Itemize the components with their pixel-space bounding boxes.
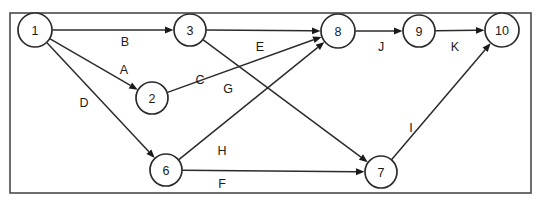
edge-label-H: H <box>217 144 226 158</box>
edge-line <box>168 40 314 93</box>
arrowhead-icon <box>356 168 365 175</box>
edge-label-K: K <box>451 40 460 54</box>
edge-line <box>183 170 357 172</box>
edge-9-to-10 <box>436 27 485 34</box>
edge-line <box>392 50 485 160</box>
edge-8-to-9 <box>356 28 403 35</box>
edge-line <box>207 30 313 31</box>
node-9[interactable]: 9 <box>403 15 435 47</box>
edge-line <box>47 43 149 152</box>
edge-label-J: J <box>378 40 384 54</box>
node-10[interactable]: 10 <box>485 13 519 47</box>
node-label: 9 <box>416 25 423 39</box>
arrowhead-icon <box>359 154 368 162</box>
node-label: 2 <box>149 92 156 106</box>
edge-label-B: B <box>121 35 129 49</box>
node-label: 1 <box>32 24 39 38</box>
edge-3-to-7 <box>203 40 368 162</box>
edge-7-to-10 <box>392 43 491 159</box>
edge-6-to-8 <box>179 42 325 160</box>
node-label: 6 <box>163 164 170 178</box>
edge-label-A: A <box>120 63 129 77</box>
node-1[interactable]: 1 <box>18 13 52 47</box>
node-label: 3 <box>187 24 194 38</box>
node-8[interactable]: 8 <box>321 14 355 48</box>
diagram-canvas: 132891067 BADEGCHFJKI <box>0 0 541 205</box>
node-label: 7 <box>378 166 385 180</box>
edge-line <box>179 47 318 159</box>
network-diagram: 132891067 BADEGCHFJKI <box>0 0 541 205</box>
arrowhead-icon <box>312 27 321 34</box>
edge-1-to-3 <box>53 27 174 34</box>
node-2[interactable]: 2 <box>136 82 168 114</box>
edge-labels-layer: BADEGCHFJKI <box>79 35 459 191</box>
edge-line <box>50 39 130 86</box>
arrowhead-icon <box>312 37 321 43</box>
edge-label-C: C <box>195 73 204 87</box>
arrowhead-icon <box>165 27 174 34</box>
node-7[interactable]: 7 <box>365 156 397 188</box>
edge-label-G: G <box>223 82 233 96</box>
arrowhead-icon <box>394 28 403 35</box>
edge-label-I: I <box>409 121 412 135</box>
edge-label-F: F <box>218 177 226 191</box>
edge-line <box>203 40 361 157</box>
arrowhead-icon <box>476 27 485 34</box>
node-label: 10 <box>495 24 509 38</box>
node-6[interactable]: 6 <box>150 154 182 186</box>
nodes-layer: 132891067 <box>18 13 519 188</box>
edges-layer <box>47 27 491 176</box>
edge-3-to-8 <box>207 27 321 34</box>
edge-label-D: D <box>79 96 88 110</box>
edge-6-to-7 <box>183 168 365 175</box>
node-label: 8 <box>335 25 342 39</box>
node-3[interactable]: 3 <box>174 14 206 46</box>
arrowhead-icon <box>129 83 138 90</box>
edge-label-E: E <box>256 40 264 54</box>
